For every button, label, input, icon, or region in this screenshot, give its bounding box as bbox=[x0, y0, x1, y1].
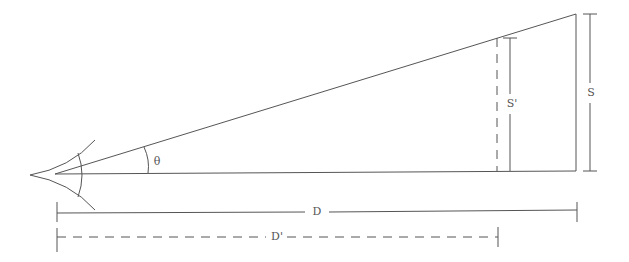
sight-line-top bbox=[55, 14, 576, 174]
visual-angle-diagram bbox=[0, 0, 629, 262]
angle-theta-arc bbox=[144, 147, 149, 173]
eye-lower-lid bbox=[30, 175, 95, 210]
eye-upper-lid bbox=[30, 140, 95, 175]
s-prime-label: S' bbox=[504, 98, 521, 110]
s-label: S bbox=[584, 87, 598, 99]
d-label: D bbox=[310, 206, 325, 218]
eye-lens-arc bbox=[78, 153, 82, 197]
theta-label: θ bbox=[151, 156, 164, 168]
sight-line-base bbox=[55, 171, 576, 174]
eye-icon bbox=[30, 140, 95, 210]
d-prime-label: D' bbox=[268, 231, 286, 243]
